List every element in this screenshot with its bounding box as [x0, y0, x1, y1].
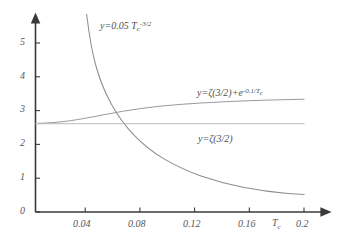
curve-zeta-plus-exp: [36, 99, 305, 123]
annotation-zeta-plus-exp: y=ζ(3/2)+e-0.1/Tc: [197, 87, 263, 98]
x-tick-label-0: 0.04: [73, 219, 91, 229]
annotation-power-law-base: y=0.05: [100, 20, 131, 31]
plot-canvas: [0, 0, 349, 241]
x-tick-label-2: 0.12: [183, 219, 201, 229]
x-tick-label-3: 0.16: [238, 219, 256, 229]
x-tick-label-4: 0.2: [296, 219, 309, 229]
y-tick-label-4: 4: [20, 71, 25, 81]
curve-power-law: [87, 14, 305, 195]
y-tick-label-2: 2: [20, 138, 25, 148]
y-tick-label-0: 0: [20, 206, 25, 216]
annotation-zeta-plus-exp-exponent: -0.1/Tc: [243, 87, 263, 95]
x-tick-label-1: 0.08: [128, 219, 146, 229]
y-tick-label-5: 5: [20, 37, 25, 47]
annotation-zeta-plus-exp-exponent-text: -0.1/T: [243, 87, 260, 95]
y-tick-label-3: 3: [20, 104, 25, 114]
annotation-power-law: y=0.05 Tc-3/2: [100, 20, 151, 33]
annotation-power-law-exponent: -3/2: [140, 20, 151, 28]
x-axis-title: Tc: [272, 218, 281, 231]
annotation-zeta-plus-exp-base: y=ζ(3/2)+: [197, 87, 238, 98]
annotation-zeta-base: y=ζ(3/2): [198, 133, 233, 144]
x-axis-title-subscript: c: [278, 223, 281, 231]
annotation-zeta-plus-exp-exponent-subscript: c: [260, 89, 263, 97]
chart-figure: 0 1 2 3 4 5 0.04 0.08 0.12 0.16 0.2 Tc y…: [0, 0, 349, 241]
annotation-zeta: y=ζ(3/2): [198, 133, 233, 144]
y-tick-label-1: 1: [20, 172, 25, 182]
